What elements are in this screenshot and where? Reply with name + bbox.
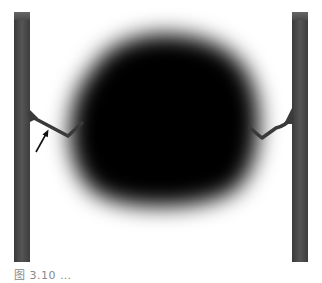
figure-caption: 图 3.10 … — [14, 269, 314, 283]
annotation-arrow — [36, 130, 49, 153]
central-blob — [70, 34, 259, 206]
figure-graphic — [0, 0, 322, 262]
right-pillar — [292, 12, 308, 262]
figure — [0, 0, 322, 262]
left-pillar — [14, 12, 30, 262]
